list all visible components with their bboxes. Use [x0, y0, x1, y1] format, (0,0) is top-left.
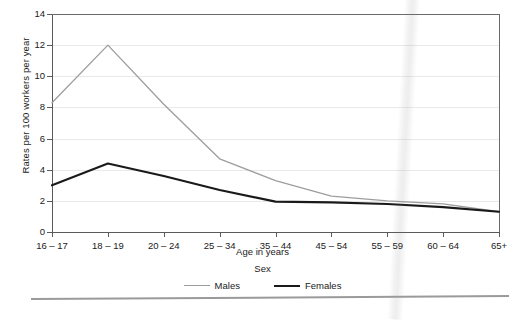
- legend: Sex Males Females: [0, 263, 525, 291]
- x-tick: [108, 233, 109, 237]
- scan-artifact-rule: [0, 296, 525, 302]
- x-tick: [276, 233, 277, 237]
- y-tick-label: 6: [25, 134, 45, 144]
- legend-entries: Males Females: [0, 280, 525, 291]
- x-tick: [443, 233, 444, 237]
- legend-label-females: Females: [305, 280, 341, 291]
- x-tick: [52, 233, 53, 237]
- y-tick-label: 14: [25, 9, 45, 19]
- x-tick: [220, 233, 221, 237]
- x-tick: [387, 233, 388, 237]
- y-tick-label: 0: [25, 227, 45, 237]
- y-tick-label: 8: [25, 102, 45, 112]
- legend-entry-females: Females: [274, 280, 341, 291]
- legend-title: Sex: [0, 263, 525, 274]
- x-tick: [164, 233, 165, 237]
- legend-label-males: Males: [215, 280, 240, 291]
- y-tick-label: 4: [25, 165, 45, 175]
- series-lines: [52, 14, 500, 233]
- y-tick-label: 10: [25, 71, 45, 81]
- plot-area: 02468101214 16 – 1718 – 1920 – 2425 – 34…: [52, 14, 500, 233]
- y-tick-label: 2: [25, 196, 45, 206]
- series-line-males: [52, 45, 499, 212]
- black-line-swatch-icon: [274, 285, 300, 287]
- x-tick: [331, 233, 332, 237]
- x-tick: [499, 233, 500, 237]
- series-line-females: [52, 163, 499, 211]
- y-tick-label: 12: [25, 40, 45, 50]
- legend-entry-males: Males: [184, 280, 240, 291]
- x-axis-title: Age in years: [0, 246, 525, 257]
- gray-line-swatch-icon: [184, 285, 210, 286]
